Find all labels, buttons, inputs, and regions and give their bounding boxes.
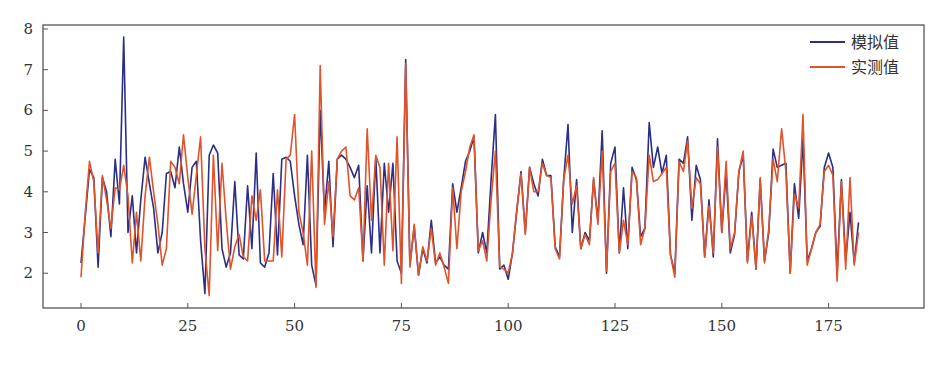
y-tick-label: 6 xyxy=(23,101,33,119)
line-chart: 2345678 0255075100125150175 模拟值 实测值 xyxy=(0,0,940,365)
y-tick-label: 3 xyxy=(23,224,33,242)
x-tick-label: 75 xyxy=(392,317,411,335)
y-tick-label: 2 xyxy=(23,264,33,282)
legend-label-simulated: 模拟值 xyxy=(851,33,899,52)
x-tick-label: 175 xyxy=(814,317,843,335)
x-tick-label: 100 xyxy=(494,317,523,335)
x-tick-label: 125 xyxy=(601,317,630,335)
x-tick-label: 25 xyxy=(178,317,197,335)
x-tick-label: 0 xyxy=(76,317,86,335)
x-tick-label: 50 xyxy=(285,317,304,335)
y-tick-label: 7 xyxy=(23,61,33,79)
x-tick-label: 150 xyxy=(707,317,736,335)
legend-label-measured: 实测值 xyxy=(851,58,899,77)
y-tick-label: 4 xyxy=(23,183,33,201)
y-tick-label: 8 xyxy=(23,20,33,38)
y-tick-label: 5 xyxy=(23,142,33,160)
